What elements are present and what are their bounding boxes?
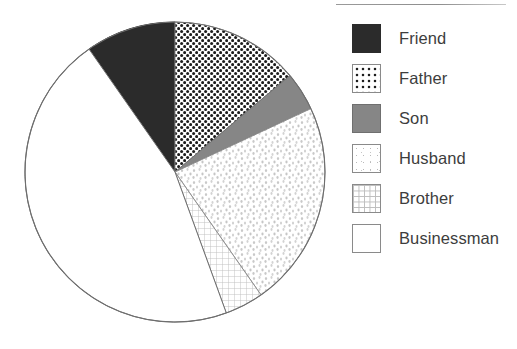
fine-grid-swatch-icon — [352, 184, 381, 213]
pie-chart-svg — [0, 0, 345, 349]
pie-chart — [0, 0, 345, 349]
legend-item-brother: Brother — [352, 178, 517, 218]
legend-item-label: Son — [399, 110, 429, 127]
legend-item-friend: Friend — [352, 18, 517, 58]
black-dots-swatch-icon — [352, 64, 381, 93]
legend-item-businessman: Businessman — [352, 218, 517, 258]
chart-legend: Friend Father Son Husband Brother Busine… — [352, 18, 517, 258]
legend-item-label: Businessman — [399, 230, 499, 247]
legend-item-son: Son — [352, 98, 517, 138]
legend-item-label: Father — [399, 70, 447, 87]
legend-item-label: Brother — [399, 190, 454, 207]
legend-item-label: Friend — [399, 30, 446, 47]
solid-gray-swatch-icon — [352, 104, 381, 133]
legend-item-label: Husband — [399, 150, 466, 167]
solid-dark-swatch-icon — [352, 24, 381, 53]
pie-slices — [25, 22, 325, 322]
light-speckle-swatch-icon — [352, 144, 381, 173]
header-divider — [336, 4, 506, 5]
legend-item-father: Father — [352, 58, 517, 98]
plain-white-swatch-icon — [352, 224, 381, 253]
legend-item-husband: Husband — [352, 138, 517, 178]
